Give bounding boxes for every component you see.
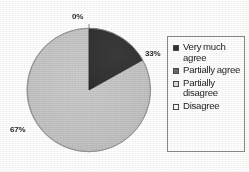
legend-label-disagree: Disagree [183,101,219,112]
legend-item-partially-agree: Partially agree [173,65,241,76]
pie-chart-figure: 0% 33% 67% Very much agree Partially agr… [0,0,249,172]
pie-value-label-left: 67% [10,126,25,134]
pie-chart-svg [0,0,168,172]
legend-item-disagree: Disagree [173,101,241,112]
legend-label-very-much-agree: Very much agree [183,42,241,63]
legend-label-partially-disagree: Partially disagree [183,78,241,99]
legend-swatch-very-much-agree [173,45,179,51]
legend-swatch-disagree [173,104,179,110]
legend-item-very-much-agree: Very much agree [173,42,241,63]
pie-value-label-right: 33% [145,50,160,58]
chart-legend: Very much agree Partially agree Partiall… [167,36,245,152]
legend-label-partially-agree: Partially agree [183,65,240,76]
pie-plot-area: 0% 33% 67% [0,0,168,172]
legend-item-partially-disagree: Partially disagree [173,78,241,99]
legend-swatch-partially-agree [173,68,179,74]
pie-value-label-top: 0% [72,13,83,21]
legend-swatch-partially-disagree [173,81,179,87]
